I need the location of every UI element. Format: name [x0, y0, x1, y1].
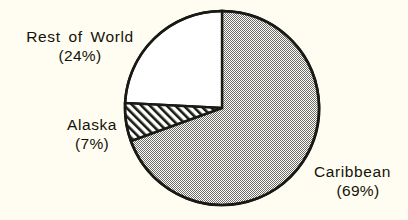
pie-label-alaska: Alaska (7%): [56, 115, 128, 153]
pie-label-alaska-value: (7%): [56, 134, 128, 153]
pie-label-rest-of-world: Rest of World (24%): [16, 27, 144, 65]
pie-label-caribbean-value: (69%): [314, 181, 402, 200]
pie-chart: Rest of World (24%) Alaska (7%) Caribbea…: [0, 0, 408, 220]
pie-label-caribbean: Caribbean (69%): [314, 162, 408, 200]
pie-label-rest-of-world-name: Rest of World: [16, 27, 144, 46]
pie-label-caribbean-name: Caribbean: [314, 162, 408, 181]
pie-label-rest-of-world-value: (24%): [16, 46, 144, 65]
pie-label-alaska-name: Alaska: [56, 115, 128, 134]
